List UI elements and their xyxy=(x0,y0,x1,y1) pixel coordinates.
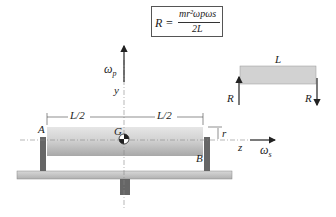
free-body-bar xyxy=(240,66,316,84)
omega-s-label: ωs xyxy=(260,143,272,159)
formula-lhs: R = xyxy=(155,16,173,31)
free-body-length-label: L xyxy=(275,53,281,65)
y-axis-label: y xyxy=(114,84,119,96)
pedestal xyxy=(120,179,130,195)
bearing-a xyxy=(40,137,46,171)
bearing-a-label: A xyxy=(38,123,45,135)
bearing-b xyxy=(204,137,210,171)
omega-p-label: ωp xyxy=(104,62,116,78)
reaction-right-label: R xyxy=(305,92,312,104)
half-length-right-label: L/2 xyxy=(157,109,172,121)
z-axis-label: z xyxy=(238,141,242,153)
half-length-left-label: L/2 xyxy=(70,109,85,121)
formula-denominator: 2L xyxy=(192,23,203,34)
center-of-mass-label: G xyxy=(114,125,122,137)
formula-box: R = mr²ωpωs 2L xyxy=(151,6,223,37)
formula-numerator: mr²ωpωs xyxy=(179,8,216,19)
bearing-b-label: B xyxy=(196,152,203,164)
reaction-left-label: R xyxy=(227,92,234,104)
radius-label: r xyxy=(222,127,226,139)
base-plate xyxy=(17,171,232,179)
